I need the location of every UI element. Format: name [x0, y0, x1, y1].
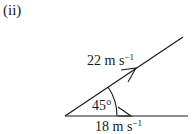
horizontal-arrowhead-icon	[118, 107, 131, 116]
angle-label: 45°	[92, 99, 112, 113]
horizontal-velocity-value: 18 m s	[95, 119, 132, 134]
horizontal-velocity-exponent: −1	[132, 118, 142, 128]
upper-velocity-label: 22 m s−1	[87, 54, 134, 68]
horizontal-velocity-label: 18 m s−1	[95, 120, 142, 134]
upper-velocity-value: 22 m s	[87, 53, 124, 68]
upper-vector-line	[65, 37, 183, 116]
upper-velocity-exponent: −1	[124, 52, 134, 62]
